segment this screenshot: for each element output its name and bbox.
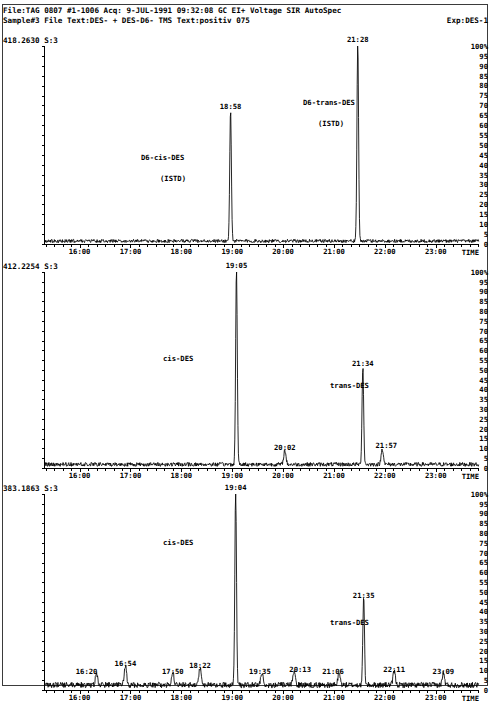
y-tick-label: 100% [471, 43, 488, 50]
y-tick-label: 80 [479, 308, 488, 315]
x-tick-label: 16:00 [69, 472, 91, 480]
x-minor-tick [207, 245, 208, 247]
x-minor-tick [147, 245, 148, 247]
chromatogram-report-page: File:TAG 0807 #1-1006 Acq: 9-JUL-1991 09… [0, 0, 491, 721]
x-minor-tick [198, 691, 199, 693]
plot-area-2 [44, 272, 479, 468]
x-tick-label: 21:00 [323, 472, 345, 480]
x-minor-tick [249, 691, 250, 693]
peak-time-label: 23:09 [433, 668, 455, 676]
x-minor-tick [97, 245, 98, 247]
y-tick-label: 95 [479, 501, 488, 508]
compound-annotation: trans-DES [330, 382, 369, 390]
x-minor-tick [359, 469, 360, 471]
x-minor-tick [300, 469, 301, 471]
y-tick-label: 20 [479, 201, 488, 208]
y-tick-label: 60 [479, 347, 488, 354]
peak-time-label: 18:58 [220, 103, 242, 111]
y-tick-label: 70 [479, 550, 488, 557]
x-minor-tick [114, 245, 115, 247]
x-minor-tick [453, 691, 454, 693]
trace-id-3: 383.1863 S:3 [3, 484, 58, 493]
y-tick-label: 5 [484, 677, 488, 684]
x-minor-tick [114, 691, 115, 693]
x-minor-tick [461, 245, 462, 247]
y-tick-label: 35 [479, 396, 488, 403]
x-minor-tick [309, 691, 310, 693]
compound-annotation: trans-DES [330, 619, 369, 627]
y-tick-label: 60 [479, 569, 488, 576]
x-minor-tick [114, 469, 115, 471]
x-minor-tick [402, 469, 403, 471]
y-tick-label: 55 [479, 132, 488, 139]
y-tick-label: 45 [479, 599, 488, 606]
y-tick-label: 45 [479, 377, 488, 384]
x-minor-tick [470, 245, 471, 247]
x-axis-title: TIME [462, 694, 479, 703]
x-minor-tick [63, 469, 64, 471]
x-minor-tick [470, 691, 471, 693]
y-tick-label: 75 [479, 92, 488, 99]
y-tick-label: 50 [479, 142, 488, 149]
x-minor-tick [351, 245, 352, 247]
y-tick-label: 5 [484, 455, 488, 462]
y-tick-label: 45 [479, 152, 488, 159]
chromatogram-panel-3: 383.1863 S:3 100%95908580757065605550454… [0, 484, 491, 714]
x-tick-label: 22:00 [374, 248, 396, 256]
y-tick-label: 0 [484, 687, 488, 694]
y-tick-label: 35 [479, 618, 488, 625]
trace-line-1 [44, 46, 481, 246]
y-tick-label: 25 [479, 638, 488, 645]
x-minor-tick [147, 469, 148, 471]
y-tick-label: 10 [479, 221, 488, 228]
y-tick-label: 55 [479, 357, 488, 364]
compound-annotation: D6-cis-DES [141, 154, 184, 162]
x-minor-tick [156, 469, 157, 471]
x-minor-tick [258, 469, 259, 471]
y-tick-label: 100% [471, 269, 488, 276]
x-tick-label: 17:00 [120, 472, 142, 480]
x-tick-label: 21:00 [323, 694, 345, 702]
x-minor-tick [46, 245, 47, 247]
x-minor-tick [54, 245, 55, 247]
x-minor-tick [359, 245, 360, 247]
x-axis-spine [44, 690, 479, 691]
peak-time-label: 21:57 [376, 442, 398, 450]
y-tick-label: 5 [484, 231, 488, 238]
y-tick-label: 30 [479, 406, 488, 413]
x-minor-tick [207, 691, 208, 693]
y-tick-label: 55 [479, 579, 488, 586]
x-minor-tick [410, 691, 411, 693]
x-minor-tick [351, 691, 352, 693]
x-minor-tick [215, 469, 216, 471]
x-tick-label: 19:00 [221, 694, 243, 702]
y-axis-spine [44, 272, 45, 469]
x-minor-tick [97, 469, 98, 471]
y-tick-label: 10 [479, 445, 488, 452]
y-tick-label: 80 [479, 82, 488, 89]
trace-line-3 [44, 494, 481, 692]
y-tick-label: 15 [479, 435, 488, 442]
x-minor-tick [164, 691, 165, 693]
peak-time-label: 21:34 [352, 360, 374, 368]
compound-annotation: D6-trans-DES [303, 99, 355, 107]
x-minor-tick [97, 691, 98, 693]
compound-annotation: (ISTD) [160, 175, 186, 183]
x-minor-tick [359, 691, 360, 693]
x-tick-label: 22:00 [374, 694, 396, 702]
x-axis-spine [44, 468, 479, 469]
x-minor-tick [249, 469, 250, 471]
peak-time-label: 21:06 [322, 668, 344, 676]
x-minor-tick [105, 469, 106, 471]
x-tick-label: 20:00 [272, 472, 294, 480]
x-tick-label: 21:00 [323, 248, 345, 256]
compound-annotation: cis-DES [163, 355, 193, 363]
peak-time-label: 20:02 [274, 444, 296, 452]
y-tick-label: 30 [479, 181, 488, 188]
y-tick-label: 20 [479, 426, 488, 433]
y-tick-label: 90 [479, 63, 488, 70]
x-minor-tick [478, 245, 479, 247]
y-tick-label: 65 [479, 559, 488, 566]
y-tick-label: 90 [479, 510, 488, 517]
x-tick-label: 16:00 [69, 248, 91, 256]
